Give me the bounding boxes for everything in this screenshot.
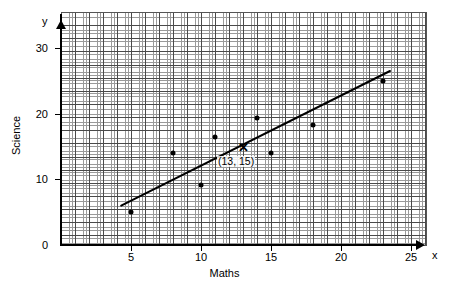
x-axis-letter: x — [432, 250, 438, 261]
y-tick-label: 0 — [22, 240, 48, 251]
y-tick-20 — [55, 114, 60, 115]
chart-canvas: x y 5101520250102030 ✕(13, 15) Maths Sci… — [0, 0, 449, 284]
x-axis-title: Maths — [0, 268, 449, 279]
y-tick-10 — [55, 179, 60, 180]
y-tick-label: 20 — [22, 108, 48, 119]
y-axis-line — [60, 14, 62, 246]
graph-paper-grid — [61, 12, 427, 246]
y-tick-label: 10 — [22, 174, 48, 185]
y-axis-title: Science — [11, 106, 22, 166]
x-tick-label: 10 — [195, 252, 207, 263]
y-tick-30 — [55, 48, 60, 49]
x-tick-label: 20 — [335, 252, 347, 263]
x-axis-arrow-icon — [416, 240, 425, 250]
x-tick-label: 25 — [405, 252, 417, 263]
x-tick-label: 15 — [265, 252, 277, 263]
y-axis-arrow-icon — [56, 20, 66, 29]
y-axis-letter: y — [42, 16, 48, 27]
x-axis-line — [60, 244, 423, 246]
x-tick-label: 5 — [128, 252, 134, 263]
y-tick-label: 30 — [22, 43, 48, 54]
